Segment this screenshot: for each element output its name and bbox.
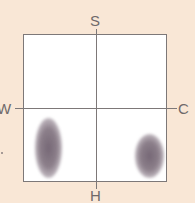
vertical-axis <box>96 29 97 189</box>
horizontal-axis <box>15 108 177 109</box>
axis-label-bottom: H <box>90 188 101 203</box>
edge-mark <box>1 152 3 154</box>
axis-label-top: S <box>90 13 100 28</box>
cluster-bottom-right <box>135 134 164 178</box>
cluster-bottom-left <box>35 118 62 178</box>
axis-label-right: C <box>178 101 189 116</box>
axis-label-left: W <box>0 101 11 116</box>
